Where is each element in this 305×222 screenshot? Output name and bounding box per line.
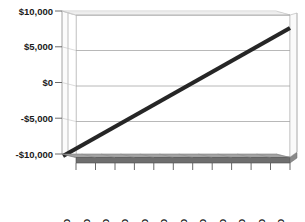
x-tick-label: $16,000 bbox=[218, 219, 228, 222]
x-tick-label: $8,000 bbox=[140, 219, 150, 222]
line-chart-3d: $10,000 $5,000 $0 -$5,000 -$10,000 bbox=[0, 0, 305, 222]
x-tick-label: $20,000 bbox=[257, 219, 267, 222]
x-tick-label: $12,000 bbox=[179, 219, 189, 222]
x-tick-label: $22,000 bbox=[276, 219, 286, 222]
x-tick-label: $10,000 bbox=[159, 219, 169, 222]
x-tick-label: $4,000 bbox=[101, 219, 111, 222]
x-tick-label: $6,000 bbox=[120, 219, 130, 222]
y-tick-label: $0 bbox=[42, 77, 53, 88]
y-tick-label: $5,000 bbox=[24, 41, 53, 52]
y-tick-label: $10,000 bbox=[19, 6, 53, 17]
y-tick-label: -$10,000 bbox=[15, 149, 53, 160]
y-tick-label: -$5,000 bbox=[21, 113, 53, 124]
plot-floor-3d bbox=[62, 153, 297, 164]
chart-container: $10,000 $5,000 $0 -$5,000 -$10,000 bbox=[0, 0, 305, 222]
x-tick-label: $14,000 bbox=[198, 219, 208, 222]
plot-right-depth-panel bbox=[290, 13, 297, 157]
x-tick-label: $18,000 bbox=[237, 219, 247, 222]
plot-top-depth-edges bbox=[62, 11, 290, 15]
x-tick-label: $2,000 bbox=[82, 219, 92, 222]
x-tick-label: $0 bbox=[62, 219, 72, 222]
